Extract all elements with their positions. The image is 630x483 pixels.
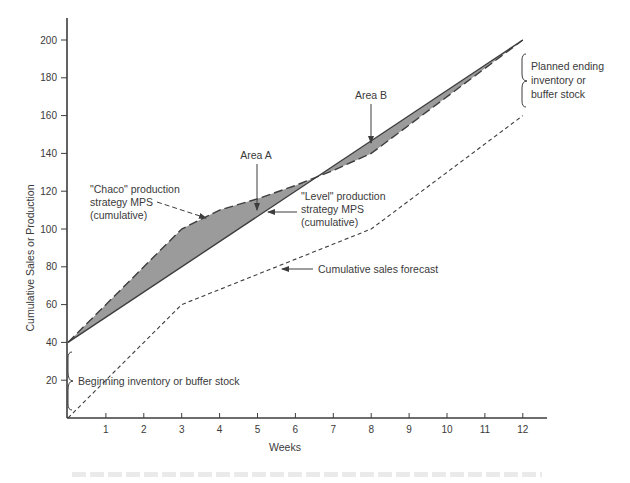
svg-text:"Chaco" production: "Chaco" production [90,183,180,195]
y-axis-title: Cumulative Sales or Production [24,184,36,331]
figure-caption-illegible [72,472,542,477]
y-ticks: 20406080100120140160180200 [40,35,67,386]
area-b-label: Area B [355,89,387,101]
y-tick-label: 40 [46,337,58,348]
y-tick-label: 180 [40,72,57,83]
x-tick-label: 4 [217,424,223,435]
svg-text:Beginning inventory or buffer: Beginning inventory or buffer stock [78,375,240,387]
x-tick-label: 5 [255,424,261,435]
svg-text:Planned ending: Planned ending [531,60,604,72]
x-tick-label: 11 [480,424,491,435]
chase-label: "Chaco" production strategy MPS (cumulat… [90,183,206,221]
y-tick-label: 80 [46,261,58,272]
y-tick-label: 200 [40,35,57,46]
svg-text:buffer stock: buffer stock [531,88,586,100]
svg-text:"Level" production: "Level" production [301,190,386,202]
x-tick-label: 12 [517,424,529,435]
x-tick-label: 7 [331,424,337,435]
y-tick-label: 160 [40,110,57,121]
svg-text:inventory or: inventory or [531,74,586,86]
x-tick-label: 10 [441,424,453,435]
beginning-inventory-annotation: Beginning inventory or buffer stock [68,352,240,410]
svg-text:(cumulative): (cumulative) [90,209,147,221]
y-tick-label: 60 [46,299,58,310]
svg-text:strategy MPS: strategy MPS [90,196,153,208]
y-tick-label: 100 [40,224,57,235]
x-tick-label: 1 [103,424,109,435]
y-tick-label: 20 [46,375,58,386]
svg-text:strategy MPS: strategy MPS [301,203,364,215]
x-tick-label: 2 [141,424,147,435]
y-tick-label: 120 [40,186,57,197]
svg-text:(cumulative): (cumulative) [301,216,358,228]
x-tick-label: 9 [406,424,412,435]
x-tick-label: 8 [368,424,374,435]
x-axis-title: Weeks [269,441,301,453]
series-lines [68,40,523,418]
svg-text:Cumulative sales forecast: Cumulative sales forecast [318,263,438,275]
x-tick-label: 3 [179,424,185,435]
chart: 20406080100120140160180200 1234567891011… [0,0,630,483]
sales-forecast-label: Cumulative sales forecast [282,263,438,275]
brace-icon [522,54,527,107]
y-tick-label: 140 [40,148,57,159]
ending-inventory-annotation: Planned ending inventory or buffer stock [522,54,604,107]
x-ticks: 123456789101112 [103,413,529,435]
x-tick-label: 6 [293,424,299,435]
chase-arrow [157,202,206,218]
brace-icon [68,352,73,410]
area-a-label: Area A [240,149,272,161]
sales-forecast-line [68,116,523,418]
